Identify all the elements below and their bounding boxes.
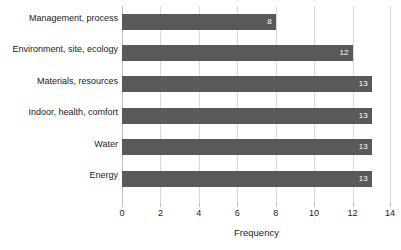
plot-area: 8 12 13 13 13 13 [122,6,391,203]
bar-value-label: 13 [359,80,368,88]
bar-value-label: 13 [359,143,368,151]
x-tick-label: 14 [385,209,395,218]
x-tick-label: 8 [273,209,278,218]
bar-row: 8 [122,6,391,37]
x-tick [237,203,238,207]
category-label: Materials, resources [0,77,118,86]
bar-energy[interactable]: 13 [122,171,372,187]
bar-management-process[interactable]: 8 [122,14,276,30]
category-axis-labels: Management, process Environment, site, e… [0,6,118,203]
x-tick-label: 12 [348,209,358,218]
bar-row: 13 [122,69,391,100]
bar-chart: Management, process Environment, site, e… [0,0,401,250]
bar-indoor-health-comfort[interactable]: 13 [122,108,372,124]
x-tick [122,203,123,207]
x-tick-label: 4 [196,209,201,218]
bar-value-label: 12 [339,49,348,57]
bar-water[interactable]: 13 [122,139,372,155]
category-label: Energy [0,171,118,180]
x-tick-label: 10 [309,209,319,218]
bar-materials-resources[interactable]: 13 [122,76,372,92]
x-tick [276,203,277,207]
bar-row: 13 [122,163,391,194]
category-label: Indoor, health, comfort [0,108,118,117]
bar-value-label: 8 [267,18,272,26]
bar-row: 12 [122,37,391,68]
category-label: Management, process [0,14,118,23]
x-tick-label: 6 [235,209,240,218]
x-axis-title: Frequency [122,228,391,238]
bar-value-label: 13 [359,112,368,120]
bar-row: 13 [122,132,391,163]
category-label: Environment, site, ecology [0,45,118,54]
x-tick [314,203,315,207]
x-tick [390,203,391,207]
bar-row: 13 [122,100,391,131]
bar-value-label: 13 [359,175,368,183]
bar-environment-site-ecology[interactable]: 12 [122,45,353,61]
x-tick [199,203,200,207]
x-tick-label: 2 [158,209,163,218]
x-tick-label: 0 [119,209,124,218]
category-label: Water [0,140,118,149]
x-tick [160,203,161,207]
x-tick [353,203,354,207]
x-axis: 0 2 4 6 8 10 12 14 [122,203,391,223]
